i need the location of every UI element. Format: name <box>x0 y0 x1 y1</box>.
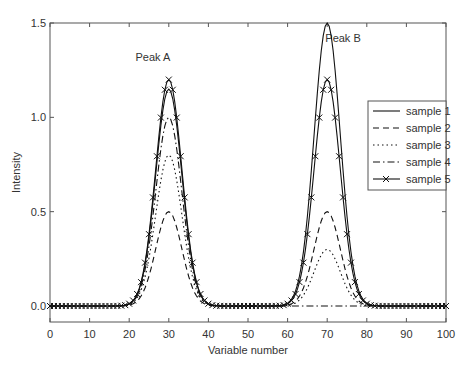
x-tick-label: 90 <box>400 328 412 340</box>
x-tick-label: 100 <box>437 328 455 340</box>
x-tick-label: 10 <box>83 328 95 340</box>
legend-label: sample 3 <box>406 139 451 151</box>
x-tick-label: 50 <box>242 328 254 340</box>
x-tick-label: 70 <box>321 328 333 340</box>
legend-label: sample 4 <box>406 156 451 168</box>
y-axis-label: Intensity <box>10 152 22 193</box>
y-tick-label: 0.5 <box>31 206 46 218</box>
series-line-sample-2 <box>50 212 446 306</box>
x-marker <box>324 77 330 83</box>
legend-label: sample 5 <box>406 173 451 185</box>
y-tick-label: 0.0 <box>31 300 46 312</box>
y-tick-label: 1.0 <box>31 111 46 123</box>
x-tick-label: 30 <box>163 328 175 340</box>
x-tick-label: 20 <box>123 328 135 340</box>
legend-label: sample 2 <box>406 122 451 134</box>
x-tick-label: 60 <box>281 328 293 340</box>
legend-label: sample 1 <box>406 105 451 117</box>
x-axis-label: Variable number <box>208 344 288 356</box>
chart-figure: 01020304050607080901000.00.51.01.5Variab… <box>0 0 470 368</box>
y-tick-label: 1.5 <box>31 17 46 29</box>
x-marker <box>166 77 172 83</box>
x-tick-label: 80 <box>361 328 373 340</box>
peak-annotation: Peak A <box>136 51 172 63</box>
x-tick-label: 40 <box>202 328 214 340</box>
line-chart: 01020304050607080901000.00.51.01.5Variab… <box>0 0 470 368</box>
x-tick-label: 0 <box>47 328 53 340</box>
